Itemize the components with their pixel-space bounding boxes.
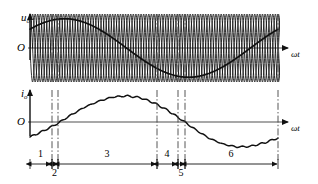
top-origin-label: O xyxy=(17,42,25,53)
segment-measure-bars xyxy=(30,159,278,169)
segment-label-1: 1 xyxy=(38,148,43,159)
segment-label-5: 5 xyxy=(179,167,184,178)
carrier-arc xyxy=(286,14,289,48)
top-y-axis-label: uo xyxy=(21,12,30,25)
segment-label-3: 3 xyxy=(105,148,110,159)
segment-label-6: 6 xyxy=(229,148,234,159)
bottom-y-axis-label: io xyxy=(21,88,27,101)
bottom-plot-group xyxy=(28,90,288,147)
bottom-origin-label: O xyxy=(17,116,25,127)
waveform-figure: uo O ωt io O ωt 123456 xyxy=(0,0,318,184)
segment-label-2: 2 xyxy=(52,167,57,178)
waveform-canvas xyxy=(0,0,318,184)
bottom-x-axis-label: ωt xyxy=(291,124,300,133)
top-x-axis-label: ωt xyxy=(291,50,300,59)
carrier-arc xyxy=(283,14,288,48)
segment-label-4: 4 xyxy=(165,148,170,159)
